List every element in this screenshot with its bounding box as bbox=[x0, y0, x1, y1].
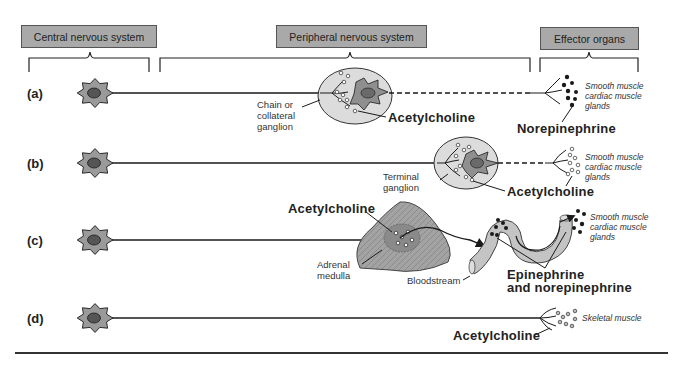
bracket-cns bbox=[29, 52, 149, 72]
neuron-nucleus-c bbox=[88, 235, 101, 245]
effector-label-a: Smooth muscle cardiac muscle glands bbox=[585, 81, 644, 111]
row-label-c: (c) bbox=[27, 233, 43, 248]
neuron-nucleus-b bbox=[88, 158, 101, 168]
norepinephrine-dots-a bbox=[562, 75, 578, 107]
bracket-effector bbox=[540, 52, 638, 72]
effector-label-d: Skeletal muscle bbox=[582, 313, 642, 323]
hormone-dots-effector bbox=[572, 209, 586, 234]
acetylcholine-vesicles-d bbox=[556, 309, 577, 328]
row-b bbox=[112, 137, 580, 191]
acetylcholine-label-b: Acetylcholine bbox=[507, 184, 594, 199]
acetylcholine-label-a: Acetylcholine bbox=[388, 110, 475, 125]
bloodstream-label: Bloodstream bbox=[407, 275, 460, 286]
diagram-stage: Central nervous system Peripheral nervou… bbox=[0, 0, 675, 368]
norepinephrine-label-a: Norepinephrine bbox=[517, 121, 616, 136]
adrenal-medulla-label: Adrenal medulla bbox=[317, 259, 350, 281]
neuron-nucleus-d bbox=[88, 313, 101, 323]
ganglion-label-b: Terminal ganglion bbox=[383, 171, 419, 193]
ganglion-label-a: Chain or collateral ganglion bbox=[257, 99, 295, 132]
effector-label-b: Smooth muscle cardiac muscle glands bbox=[585, 152, 644, 182]
hormones-label: Epinephrine and norepinephrine bbox=[507, 268, 632, 294]
neuron-nucleus-a bbox=[88, 88, 101, 98]
acetylcholine-label-d: Acetylcholine bbox=[453, 328, 540, 343]
row-label-b: (b) bbox=[27, 156, 44, 171]
acetylcholine-label-c: Acetylcholine bbox=[288, 201, 375, 216]
norepinephrine-vesicles-b bbox=[566, 147, 580, 176]
effector-label-c: Smooth muscle cardiac muscle glands bbox=[590, 212, 649, 242]
row-a bbox=[112, 68, 578, 124]
row-label-d: (d) bbox=[27, 311, 44, 326]
row-label-a: (a) bbox=[27, 86, 43, 101]
